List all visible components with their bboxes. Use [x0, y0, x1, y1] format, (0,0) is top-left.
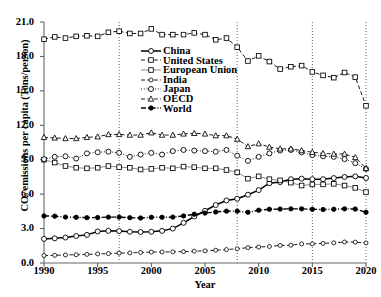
- data-point-marker: [52, 160, 57, 165]
- data-point-marker: [203, 166, 208, 171]
- data-point-marker: [138, 230, 143, 235]
- data-point-marker: [149, 27, 154, 32]
- data-point-marker: [160, 152, 165, 157]
- data-point-marker: [289, 243, 293, 247]
- data-point-marker: [214, 210, 218, 214]
- data-point-marker: [257, 245, 261, 249]
- data-point-marker: [310, 177, 315, 182]
- legend-swatch-icon: [140, 84, 162, 94]
- data-point-marker: [63, 253, 67, 257]
- data-point-marker: [299, 207, 303, 211]
- data-point-marker: [213, 149, 218, 154]
- data-point-marker: [289, 64, 294, 69]
- data-point-marker: [149, 68, 154, 73]
- y-tick-label: 3.0: [0, 222, 34, 233]
- data-point-marker: [106, 149, 111, 154]
- legend-item-world[interactable]: World: [140, 104, 237, 114]
- data-point-marker: [364, 175, 369, 180]
- data-point-marker: [63, 154, 68, 159]
- data-point-marker: [213, 166, 218, 171]
- data-point-marker: [353, 75, 358, 80]
- y-tick-label: 21.0: [0, 16, 34, 27]
- data-point-marker: [256, 141, 261, 146]
- data-point-marker: [299, 63, 304, 68]
- data-point-marker: [364, 210, 368, 214]
- data-point-marker: [106, 164, 111, 169]
- data-point-marker: [85, 215, 89, 219]
- data-point-marker: [192, 31, 197, 36]
- data-point-marker: [171, 166, 176, 171]
- data-point-marker: [106, 30, 111, 35]
- data-point-marker: [170, 149, 175, 154]
- data-point-marker: [332, 182, 337, 187]
- data-point-marker: [246, 59, 251, 64]
- y-tick-label: 9.0: [0, 153, 34, 164]
- data-point-marker: [160, 32, 165, 37]
- data-point-marker: [267, 59, 272, 64]
- data-point-marker: [52, 154, 57, 159]
- x-tick-label: 2015: [290, 265, 334, 276]
- series-india: [42, 240, 368, 258]
- data-point-marker: [117, 150, 122, 155]
- data-point-marker: [245, 158, 250, 163]
- data-point-marker: [95, 150, 100, 155]
- data-point-marker: [321, 241, 325, 245]
- data-point-marker: [203, 149, 208, 154]
- data-point-marker: [235, 196, 240, 201]
- data-point-marker: [278, 67, 283, 72]
- series-european-union: [42, 157, 369, 194]
- data-point-marker: [267, 144, 272, 149]
- x-tick-label: 1995: [76, 265, 120, 276]
- data-point-marker: [342, 183, 347, 188]
- data-point-marker: [353, 186, 358, 191]
- data-point-marker: [192, 249, 196, 253]
- data-point-marker: [310, 207, 314, 211]
- data-point-marker: [181, 164, 186, 169]
- data-point-marker: [74, 165, 79, 170]
- data-point-marker: [85, 252, 89, 256]
- data-point-marker: [171, 250, 175, 254]
- data-point-marker: [364, 190, 369, 195]
- data-point-marker: [128, 215, 132, 219]
- data-point-marker: [332, 75, 337, 80]
- data-point-marker: [267, 177, 272, 182]
- data-point-marker: [128, 251, 132, 255]
- data-point-marker: [117, 251, 121, 255]
- data-point-marker: [310, 242, 314, 246]
- data-point-marker: [364, 103, 369, 108]
- x-tick-label: 2000: [129, 265, 173, 276]
- data-point-marker: [343, 240, 347, 244]
- data-point-marker: [181, 147, 186, 152]
- data-point-marker: [63, 36, 68, 41]
- data-point-marker: [106, 252, 110, 256]
- data-point-marker: [170, 226, 175, 231]
- data-point-marker: [256, 54, 261, 59]
- data-point-marker: [84, 151, 89, 156]
- data-point-marker: [342, 174, 347, 179]
- data-point-marker: [331, 176, 336, 181]
- legend-item-european-union[interactable]: European Union: [140, 65, 237, 75]
- series-line: [44, 176, 366, 239]
- data-point-marker: [95, 134, 100, 139]
- data-point-marker: [149, 150, 154, 155]
- data-point-marker: [192, 165, 197, 170]
- data-point-marker: [289, 207, 293, 211]
- data-point-marker: [160, 165, 165, 170]
- data-point-marker: [235, 209, 239, 213]
- data-point-marker: [160, 215, 164, 219]
- data-point-marker: [181, 220, 186, 225]
- data-point-marker: [117, 29, 122, 34]
- data-point-marker: [332, 207, 336, 211]
- series-china: [42, 174, 369, 242]
- data-point-marker: [267, 207, 271, 211]
- data-point-marker: [182, 250, 186, 254]
- legend-label: World: [162, 104, 192, 114]
- data-point-marker: [224, 248, 228, 252]
- data-point-marker: [106, 215, 110, 219]
- y-tick-label: 6.0: [0, 188, 34, 199]
- data-point-marker: [203, 32, 208, 37]
- data-point-marker: [117, 215, 121, 219]
- data-point-marker: [149, 58, 154, 63]
- data-point-marker: [117, 165, 122, 170]
- data-point-marker: [246, 176, 251, 181]
